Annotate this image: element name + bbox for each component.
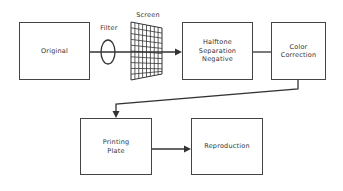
node-original-label: Original bbox=[41, 47, 68, 56]
arrowhead-printing-plate bbox=[113, 111, 120, 118]
arrowhead-reproduction bbox=[184, 146, 191, 153]
node-color-correction-label: Color Correction bbox=[281, 43, 317, 60]
node-reproduction: Reproduction bbox=[191, 118, 263, 175]
node-printing-plate-label: Printing Plate bbox=[103, 138, 130, 155]
node-original: Original bbox=[19, 22, 90, 80]
node-halftone-separation-negative: Halftone Separation Negative bbox=[182, 22, 253, 80]
screen-grid-icon bbox=[131, 22, 162, 80]
connector-color-printing bbox=[116, 80, 298, 111]
node-reproduction-label: Reproduction bbox=[204, 142, 250, 151]
filter-label: Filter bbox=[96, 24, 122, 32]
node-color-correction: Color Correction bbox=[271, 22, 326, 80]
node-printing-plate: Printing Plate bbox=[80, 118, 152, 175]
screen-label: Screen bbox=[132, 11, 164, 19]
arrowhead-halftone bbox=[175, 49, 182, 56]
node-halftone-label: Halftone Separation Negative bbox=[199, 38, 236, 64]
